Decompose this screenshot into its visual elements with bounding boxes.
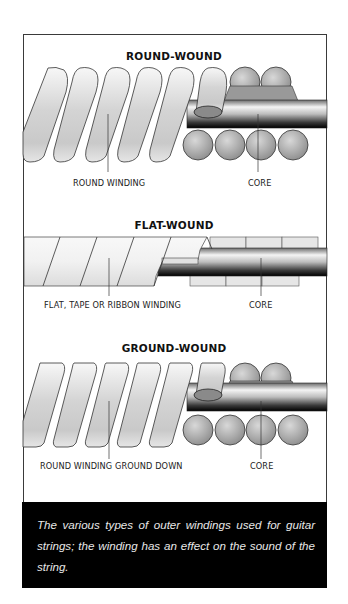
label-ground-winding: ROUND WINDING GROUND DOWN <box>40 461 183 471</box>
label-flat-core: CORE <box>249 300 272 310</box>
ground-wound-illustration <box>0 361 348 471</box>
label-ground-core: CORE <box>250 461 273 471</box>
caption-box: The various types of outer windings used… <box>22 502 327 588</box>
section-title-ground-wound: GROUND-WOUND <box>0 342 348 354</box>
flat-wound-illustration <box>0 236 348 296</box>
section-title-flat-wound: FLAT-WOUND <box>0 219 348 231</box>
round-wound-illustration <box>0 62 348 172</box>
label-round-core: CORE <box>248 178 271 188</box>
label-round-winding: ROUND WINDING <box>73 178 145 188</box>
label-flat-winding: FLAT, TAPE OR RIBBON WINDING <box>44 300 181 310</box>
caption-text: The various types of outer windings used… <box>37 514 315 577</box>
section-title-round-wound: ROUND-WOUND <box>0 50 348 62</box>
